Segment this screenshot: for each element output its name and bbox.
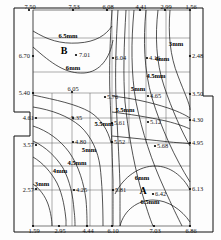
data-point-value: 5.68 [157, 142, 168, 149]
data-point-marker [189, 55, 191, 57]
data-point-value: 2.57 [23, 186, 35, 193]
contour-label: 6mm [66, 64, 81, 71]
data-point-value: 5.12 [150, 118, 161, 125]
data-point-value: 6.10 [107, 227, 118, 234]
data-point-value: 5.35 [71, 114, 82, 121]
data-point-value: 6.42 [155, 190, 166, 197]
data-point-marker [189, 93, 191, 95]
data-point-value: 4.80 [75, 138, 86, 145]
contour-label: 3mm [35, 180, 50, 187]
data-point-value: 4.41 [135, 3, 146, 10]
data-point-value: 2.95 [54, 227, 65, 234]
data-point-marker [32, 92, 34, 94]
data-point-value: 6.05 [67, 85, 78, 92]
contour-line-3mm [169, 10, 190, 110]
data-point-marker [147, 95, 149, 97]
data-point-value: 2.99 [160, 3, 171, 10]
data-point-marker [147, 121, 149, 123]
data-point-value: 2.48 [192, 52, 203, 59]
contour-line-3mm [33, 184, 52, 226]
data-point-marker [189, 142, 191, 144]
data-point-value: 4.25 [76, 186, 87, 193]
data-point-value: 5.81 [115, 186, 126, 193]
data-point-value: 7.01 [79, 51, 90, 58]
data-point-value: 1.56 [185, 3, 196, 10]
data-point-marker [111, 141, 113, 143]
contour-label: 3mm [169, 40, 184, 47]
contour-label: 5.5mm [115, 106, 135, 113]
data-point-value: 7.50 [24, 3, 35, 10]
data-point-value: 7.53 [68, 3, 79, 10]
data-point-value: 4.30 [192, 116, 203, 123]
data-point-marker [112, 57, 114, 59]
data-point-value: 5.52 [114, 138, 125, 145]
contour-label: 5.5mm [94, 120, 114, 127]
contour-label: 6.5mm [58, 32, 78, 39]
data-point-marker [35, 188, 37, 190]
contour-line-5.5mm [33, 107, 103, 226]
data-point-value: 4.95 [192, 139, 203, 146]
data-point-marker [189, 188, 191, 190]
contour-label: 5mm [82, 146, 97, 153]
peak-label-B: B [61, 45, 68, 56]
data-point-value: 4.44 [82, 227, 94, 234]
contour-plot-svg: 7.507.536.084.412.991.566.705.404.613.57… [0, 0, 221, 240]
data-point-marker [154, 145, 156, 147]
peak-label-A: A [139, 185, 147, 196]
data-point-value: 5.76 [107, 93, 118, 100]
contour-label: 4mm [53, 167, 68, 174]
data-point-marker [35, 117, 37, 119]
contour-label: 6mm [135, 174, 150, 181]
data-point-marker [146, 57, 148, 59]
data-point-value: 6.86 [185, 227, 196, 234]
contour-label: 6.5mm [140, 198, 160, 205]
data-point-marker [189, 119, 191, 121]
contour-map-figure: 7.507.536.084.412.991.566.705.404.613.57… [0, 0, 221, 240]
data-point-value: 6.08 [102, 3, 113, 10]
data-point-value: 1.59 [28, 227, 39, 234]
data-point-value: 6.70 [19, 52, 30, 59]
contour-level-labels: 6.5mm6mm3mm4mm4.5mm5mm5.5mm5.5mm5mm4.5mm… [35, 32, 184, 205]
data-point-marker [73, 189, 75, 191]
data-point-value: 5.61 [114, 119, 125, 126]
data-point-marker [152, 193, 154, 195]
data-point-value: 3.57 [23, 141, 35, 148]
data-point-marker [35, 144, 37, 146]
data-point-value: 6.13 [192, 185, 203, 192]
data-point-marker [72, 141, 74, 143]
data-point-value: 7.03 [149, 227, 160, 234]
data-point-value: 6.04 [115, 54, 127, 61]
contour-label: 4.5mm [146, 72, 166, 79]
data-point-value: 3.50 [192, 90, 203, 97]
data-point-value: 4.61 [23, 114, 34, 121]
data-point-marker [112, 189, 114, 191]
data-point-value: 5.40 [19, 89, 30, 96]
contour-label: 4.5mm [67, 159, 87, 166]
contour-label: 4mm [155, 55, 170, 62]
contour-label: 5mm [131, 85, 146, 92]
data-point-marker [104, 96, 106, 98]
data-point-value: 4.65 [150, 92, 161, 99]
data-point-marker [32, 55, 34, 57]
data-point-marker [75, 54, 77, 56]
